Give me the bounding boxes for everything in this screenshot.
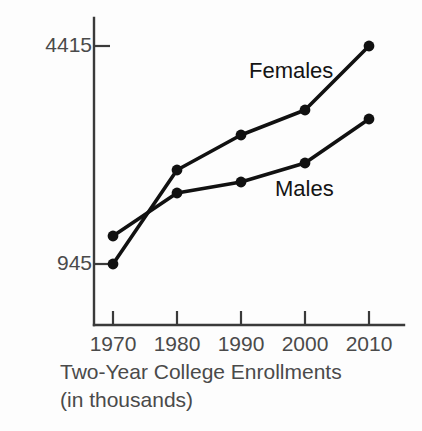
y-axis-tick-label-bottom: 945 (12, 251, 92, 275)
y-axis-tick-label-top: 4415 (12, 33, 92, 57)
data-point-males-1980 (172, 188, 183, 199)
data-point-females-1970 (108, 259, 119, 270)
data-point-females-2010 (364, 41, 375, 52)
data-point-females-1980 (172, 165, 183, 176)
x-axis-tick-label-1970: 1970 (81, 332, 145, 356)
x-axis-tick-label-2000: 2000 (273, 332, 337, 356)
data-point-females-1990 (236, 130, 247, 141)
x-axis-tick-label-1990: 1990 (209, 332, 273, 356)
x-axis-tick-label-1980: 1980 (145, 332, 209, 356)
data-point-males-2010 (364, 114, 375, 125)
data-point-males-1970 (108, 231, 119, 242)
data-point-females-2000 (300, 105, 311, 116)
series-label-males: Males (275, 176, 334, 202)
chart-caption: Two-Year College Enrollments (in thousan… (60, 358, 410, 413)
data-point-males-2000 (300, 158, 311, 169)
x-axis-tick-label-2010: 2010 (337, 332, 401, 356)
caption-line-title: Two-Year College Enrollments (60, 358, 410, 386)
caption-line-units: (in thousands) (60, 386, 410, 414)
data-point-males-1990 (236, 177, 247, 188)
chart-figure: 4415 945 1970 1980 1990 2000 2010 Female… (0, 0, 422, 431)
series-label-females: Females (249, 58, 333, 84)
